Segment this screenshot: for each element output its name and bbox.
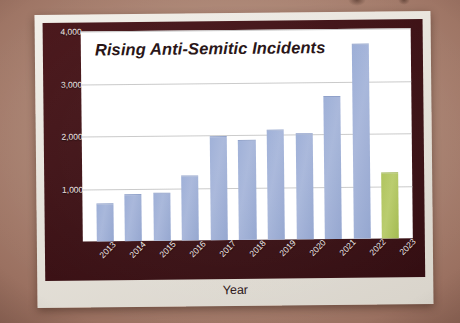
x-tick-label-2022: 2022 <box>367 237 387 258</box>
y-axis-tick-labels: 1,0002,0003,0004,000 <box>43 19 423 23</box>
x-tick-label-2020: 2020 <box>307 237 327 258</box>
bar-2023 <box>381 173 399 239</box>
bar-slot-2013 <box>89 31 120 241</box>
x-tick-label-2017: 2017 <box>217 238 237 259</box>
photographed-chart-scene: Number of Incidents Year 1,0002,0003,000… <box>0 0 460 323</box>
bar-slot-2016 <box>174 30 205 240</box>
x-axis-tick-labels: 2013201420152016201720182019202020212022… <box>91 241 421 278</box>
x-axis-title: Year <box>37 281 433 299</box>
x-tick-label-2014: 2014 <box>127 239 147 260</box>
bar-2017 <box>210 136 228 241</box>
x-tick-label-2021: 2021 <box>337 237 357 258</box>
x-tick-label-2019: 2019 <box>277 238 297 259</box>
bar-slot-2021 <box>317 29 348 239</box>
x-tick-label-2015: 2015 <box>157 239 177 260</box>
bar-slot-2017 <box>203 30 234 240</box>
bar-2020 <box>295 133 313 239</box>
printed-poster: Number of Incidents Year 1,0002,0003,000… <box>34 11 433 308</box>
x-tick-label-2016: 2016 <box>187 239 207 260</box>
x-tick-label-2018: 2018 <box>247 238 267 259</box>
x-tick-label-2013: 2013 <box>97 240 117 261</box>
bar-2015 <box>153 192 171 240</box>
x-slot-2021: 2021 <box>331 242 361 276</box>
x-slot-2015: 2015 <box>151 244 181 278</box>
background-smudge-1 <box>348 0 366 6</box>
x-slot-2022: 2022 <box>361 241 391 275</box>
x-slot-2013: 2013 <box>91 244 121 278</box>
bar-slot-2014 <box>117 31 148 241</box>
bar-2018 <box>238 140 256 240</box>
bar-slot-2022 <box>346 29 377 239</box>
bar-2021 <box>323 96 342 239</box>
bar-2019 <box>267 130 285 240</box>
y-tick-label-1000: 1,000 <box>62 184 83 194</box>
bar-slot-2020 <box>288 29 319 239</box>
bar-slot-2018 <box>231 30 262 240</box>
y-tick-label-2000: 2,000 <box>61 132 82 142</box>
x-slot-2014: 2014 <box>121 244 151 278</box>
x-tick-label-2023: 2023 <box>397 236 417 257</box>
bar-series <box>81 28 413 241</box>
plot-area: Rising Anti-Semitic Incidents <box>81 28 413 241</box>
bar-slot-2023 <box>374 28 405 238</box>
chart-frame: 1,0002,0003,0004,000 Rising Anti-Semitic… <box>43 19 426 281</box>
bar-2013 <box>96 204 114 242</box>
bar-2022 <box>351 43 370 238</box>
x-slot-2019: 2019 <box>271 242 301 276</box>
bar-slot-2019 <box>260 29 291 239</box>
y-tick-label-4000: 4,000 <box>60 27 81 37</box>
background-smudge-2 <box>398 0 410 5</box>
x-slot-2023: 2023 <box>391 241 421 275</box>
x-slot-2020: 2020 <box>301 242 331 276</box>
bar-slot-2015 <box>146 31 177 241</box>
x-slot-2018: 2018 <box>241 243 271 277</box>
x-slot-2016: 2016 <box>181 243 211 277</box>
bar-2016 <box>182 175 200 240</box>
y-tick-label-3000: 3,000 <box>61 79 82 89</box>
bar-2014 <box>125 194 143 241</box>
x-slot-2017: 2017 <box>211 243 241 277</box>
